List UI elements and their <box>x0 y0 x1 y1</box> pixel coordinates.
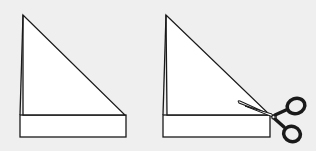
fold-edge <box>163 15 166 115</box>
diagram-svg <box>0 0 316 151</box>
paper-strip <box>163 115 270 137</box>
diagram-canvas <box>0 0 316 151</box>
paper-strip <box>20 115 126 137</box>
panel-step-2 <box>163 15 307 144</box>
panel-step-1 <box>20 15 126 137</box>
folded-triangle <box>166 15 270 115</box>
folded-triangle <box>23 15 125 115</box>
